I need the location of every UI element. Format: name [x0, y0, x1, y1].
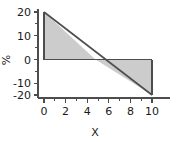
x-axis-title: X [91, 126, 99, 139]
chart-svg: 20 10 0 -10 -20 % 0 2 4 6 8 10 X [0, 0, 179, 142]
x-tick-label-10: 10 [145, 105, 159, 118]
y-tick-label-0: 0 [24, 54, 31, 67]
x-tick-label-8: 8 [127, 105, 134, 118]
y-axis-title: % [0, 55, 13, 65]
y-tick-label-10: 10 [17, 30, 31, 43]
y-tick-label-minus-20: -20 [13, 89, 31, 102]
x-tick-label-6: 6 [105, 105, 112, 118]
x-tick-label-4: 4 [84, 105, 91, 118]
chart-container: 20 10 0 -10 -20 % 0 2 4 6 8 10 X [0, 0, 179, 142]
x-tick-label-2: 2 [62, 105, 69, 118]
x-tick-label-0: 0 [41, 105, 48, 118]
y-tick-label-20: 20 [17, 6, 31, 19]
